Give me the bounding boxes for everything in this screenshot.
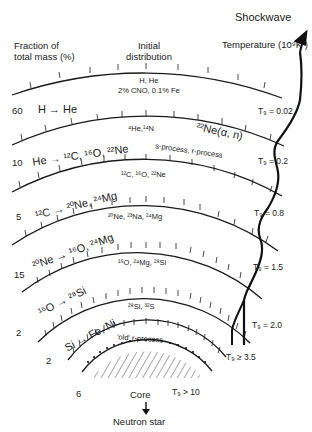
layer-1-temp: T₉ = 0.2 [258,156,288,166]
initial-distribution-header: Initial distribution [126,40,172,62]
shockwave-label: Shockwave [235,12,291,22]
core-label: Core [130,390,151,400]
layer-0-product: H, He 2% CNO, 0.1% Fe [118,76,180,96]
layer-2-temp: T₉ = 0.8 [254,208,284,218]
layer-6-temp: T₉ > 10 [172,387,200,397]
layer-3-product: ²⁰Ne, ²³Na, ²⁴Mg [108,212,162,222]
shockwave-upper-path [300,52,302,100]
layer-1-fraction: 60 [12,106,23,116]
layer-4-fraction: 15 [14,270,25,280]
layer-1-reaction: H → He [38,104,77,114]
layer-3-fraction: 5 [16,212,21,222]
core-arrow-icon [142,409,150,415]
layer-1-product: ⁴He,¹⁴N [128,124,154,134]
layer-5-temp: T₉ ≥ 3.5 [226,352,256,362]
shockwave-lower-path [232,300,244,345]
layer-2-product: ¹²C, ¹⁶O, ²²Ne [121,170,166,180]
layer-2-fraction: 10 [12,158,23,168]
shockwave-path [244,100,300,345]
layer-6-fraction: 2 [46,356,51,366]
neutron-star-label: Neutron star [113,417,165,427]
temperature-header: Temperature (10⁹K ) [222,40,308,50]
layer-5-fraction: 2 [16,328,21,338]
layer-4-temp: T₉ = 2.0 [252,320,282,330]
layer-0-temp: T₉ = 0.02 [258,106,293,116]
layer-4-product: ¹⁶O, ²⁴Mg, ²⁸Si [118,258,166,268]
layer-5-product: ²⁸Si, ³²S [128,302,155,312]
fraction-of-mass-header: Fraction of total mass (%) [14,40,75,62]
core-region [92,351,202,378]
layer-3-temp: T₉ = 1.5 [253,262,283,272]
core-fraction: 6 [76,389,81,399]
